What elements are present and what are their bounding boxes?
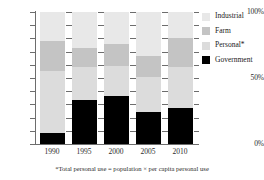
grid-dash: [194, 118, 199, 119]
grid-dash: [194, 52, 199, 53]
bar-column-2005: [136, 12, 161, 144]
grid-dash: [66, 131, 72, 132]
y-tick-0: [30, 144, 36, 145]
grid-dash: [194, 144, 199, 145]
bar-segment-industrial-1995: [72, 12, 97, 48]
grid-dash: [162, 25, 168, 26]
grid-dash: [162, 131, 168, 132]
grid-dash: [162, 91, 168, 92]
grid-dash: [98, 91, 104, 92]
grid-dash: [162, 12, 168, 13]
legend-item-personal[interactable]: Personal*: [202, 39, 264, 54]
grid-dash: [98, 65, 104, 66]
bar-segment-industrial-2005: [136, 12, 161, 56]
grid-dash: [98, 38, 104, 39]
legend-label: Personal*: [215, 39, 245, 51]
bar-column-1990: [40, 12, 65, 144]
bar-segment-government-2010: [168, 108, 193, 144]
bar-segment-industrial-2000: [104, 12, 129, 44]
legend-label: Government: [215, 54, 253, 66]
grid-dash: [130, 25, 136, 26]
bar-segment-personal-1995: [72, 67, 97, 100]
x-axis-line: [35, 144, 197, 145]
grid-dash: [130, 52, 136, 53]
grid-dash: [66, 104, 72, 105]
y-axis-label-0: 0%: [232, 140, 264, 148]
legend-swatch-icon: [202, 27, 210, 35]
grid-dash: [98, 104, 104, 105]
y-axis-label-50: 50%: [232, 74, 264, 82]
grid-dash: [98, 144, 104, 145]
grid-dash: [194, 131, 199, 132]
legend-item-industrial[interactable]: Industrial: [202, 10, 264, 25]
bar-segment-government-1995: [72, 100, 97, 144]
chart-legend: IndustrialFarmPersonal*Government: [202, 10, 264, 68]
grid-dash: [162, 144, 168, 145]
bar-segment-personal-2010: [168, 67, 193, 108]
grid-dash: [194, 104, 199, 105]
bar-segment-industrial-1990: [40, 12, 65, 41]
bar-segment-government-2005: [136, 112, 161, 144]
x-axis-label-2010: 2010: [160, 147, 200, 156]
bar-segment-personal-2000: [104, 66, 129, 96]
grid-dash: [130, 91, 136, 92]
grid-dash: [66, 118, 72, 119]
bar-segment-industrial-2010: [168, 12, 193, 38]
grid-dash: [130, 104, 136, 105]
grid-dash: [98, 52, 104, 53]
grid-dash: [162, 104, 168, 105]
bar-column-2010: [168, 12, 193, 144]
grid-dash: [162, 65, 168, 66]
bar-segment-farm-2010: [168, 38, 193, 67]
chart-footnote: *Total personal use = population × per c…: [0, 165, 264, 173]
grid-dash: [194, 12, 199, 13]
grid-dash: [98, 131, 104, 132]
bar-segment-farm-2000: [104, 44, 129, 66]
legend-item-government[interactable]: Government: [202, 54, 264, 69]
grid-dash: [66, 52, 72, 53]
bar-segment-personal-2005: [136, 77, 161, 113]
grid-dash: [194, 65, 199, 66]
grid-dash: [194, 38, 199, 39]
grid-dash: [98, 12, 104, 13]
legend-item-farm[interactable]: Farm: [202, 25, 264, 40]
bar-segment-farm-2005: [136, 56, 161, 77]
grid-dash: [98, 78, 104, 79]
legend-label: Farm: [215, 25, 231, 37]
grid-dash: [66, 12, 72, 13]
legend-swatch-icon: [202, 56, 210, 64]
grid-dash: [162, 118, 168, 119]
bar-column-2000: [104, 12, 129, 144]
grid-dash: [130, 118, 136, 119]
plot-area: [36, 12, 196, 144]
grid-dash: [162, 78, 168, 79]
grid-dash: [162, 38, 168, 39]
legend-swatch-icon: [202, 13, 210, 21]
grid-dash: [194, 91, 199, 92]
grid-dash: [66, 91, 72, 92]
grid-dash: [98, 25, 104, 26]
bar-segment-government-1990: [40, 133, 65, 144]
grid-dash: [130, 78, 136, 79]
grid-dash: [98, 118, 104, 119]
bar-segment-government-2000: [104, 96, 129, 144]
bar-segment-personal-1990: [40, 71, 65, 133]
grid-dash: [66, 65, 72, 66]
grid-dash: [194, 25, 199, 26]
grid-dash: [130, 144, 136, 145]
grid-dash: [194, 78, 199, 79]
grid-dash: [130, 38, 136, 39]
grid-dash: [130, 65, 136, 66]
bar-segment-farm-1995: [72, 48, 97, 68]
grid-dash: [66, 38, 72, 39]
grid-dash: [66, 144, 72, 145]
grid-dash: [130, 131, 136, 132]
grid-dash: [130, 12, 136, 13]
legend-label: Industrial: [215, 10, 244, 22]
grid-dash: [66, 78, 72, 79]
grid-dash: [162, 52, 168, 53]
grid-dash: [66, 25, 72, 26]
bar-segment-farm-1990: [40, 41, 65, 71]
legend-swatch-icon: [202, 42, 210, 50]
stacked-bar-chart: 100%50%0% 19901995200020052010 Industria…: [0, 0, 264, 180]
